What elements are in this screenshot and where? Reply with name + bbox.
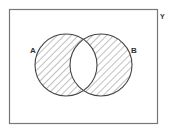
shaded-symmetric-difference-region: [0, 0, 171, 131]
venn-diagram: [0, 0, 171, 131]
set-a-label: A: [30, 47, 36, 55]
universal-set-label: Y: [160, 13, 165, 21]
set-b-label: B: [131, 47, 137, 55]
